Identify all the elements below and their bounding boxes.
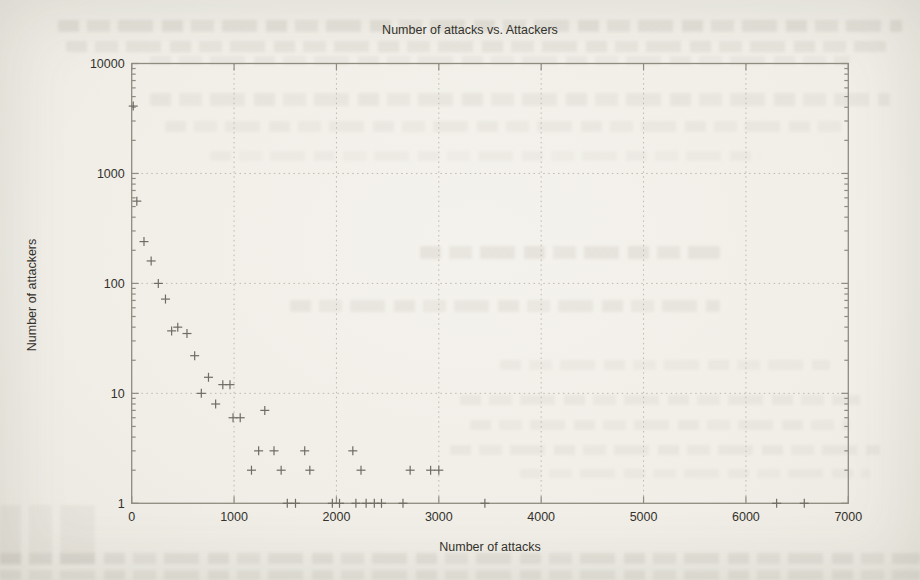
data-point-marker (291, 499, 300, 508)
y-tick-label: 100 (104, 277, 125, 291)
y-tick-label: 1 (118, 497, 125, 511)
data-point-marker (351, 499, 360, 508)
data-point-marker (139, 237, 148, 246)
data-point-marker (129, 102, 138, 111)
x-tick-label: 4000 (527, 510, 555, 524)
y-tick-label: 10 (111, 387, 125, 401)
data-point-marker (154, 279, 163, 288)
data-point-marker (800, 499, 809, 508)
y-tick-label: 10000 (90, 57, 125, 71)
data-point-marker (434, 466, 443, 475)
data-point-marker (260, 406, 269, 415)
data-point-marker (254, 446, 263, 455)
data-point-marker (182, 329, 191, 338)
x-tick-label: 0 (128, 510, 135, 524)
x-tick-label: 5000 (630, 510, 658, 524)
data-point-marker (225, 380, 234, 389)
data-point-marker (197, 389, 206, 398)
data-point-marker (283, 499, 292, 508)
data-point-marker (362, 499, 371, 508)
data-point-marker (269, 446, 278, 455)
data-point-marker (236, 413, 245, 422)
x-tick-label: 3000 (425, 510, 453, 524)
x-tick-label: 7000 (834, 510, 862, 524)
data-point-marker (161, 295, 170, 304)
data-point-marker (348, 446, 357, 455)
data-point-marker (247, 466, 256, 475)
data-point-marker (406, 466, 415, 475)
data-point-marker (377, 499, 386, 508)
x-tick-label: 2000 (323, 510, 351, 524)
data-point-marker (305, 466, 314, 475)
data-point-marker (772, 499, 781, 508)
scatter-chart: Number of attacks vs. Attackers Number o… (0, 0, 920, 580)
data-point-marker (300, 446, 309, 455)
chart-title: Number of attacks vs. Attackers (382, 23, 558, 37)
data-point-marker (211, 400, 220, 409)
data-point-marker (480, 499, 489, 508)
data-point-marker (147, 256, 156, 265)
y-axis-label: Number of attackers (25, 239, 39, 352)
data-point-marker (357, 466, 366, 475)
data-point-marker (398, 499, 407, 508)
data-point-marker (190, 351, 199, 360)
x-tick-label: 1000 (220, 510, 248, 524)
y-tick-label: 1000 (97, 167, 125, 181)
plot-area: 0100020003000400050006000700011010010001… (90, 57, 862, 524)
x-axis-label: Number of attacks (439, 540, 540, 554)
x-tick-label: 6000 (732, 510, 760, 524)
data-point-marker (204, 373, 213, 382)
data-point-marker (277, 466, 286, 475)
scanned-page: Number of attacks vs. Attackers Number o… (0, 0, 920, 580)
data-point-marker (426, 466, 435, 475)
